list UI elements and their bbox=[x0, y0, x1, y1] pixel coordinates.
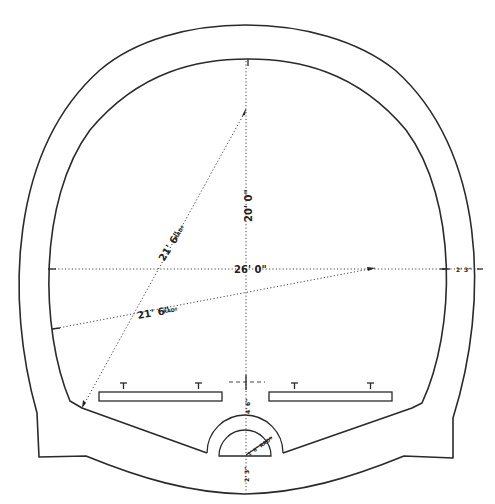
right-platform bbox=[269, 392, 392, 401]
width-dimension-label: 26' 0" bbox=[234, 264, 267, 275]
invert-thickness-label: 2' 3" bbox=[243, 467, 250, 482]
rail-icon-left-2 bbox=[195, 383, 202, 389]
wall-thickness-label: 2' 3" bbox=[456, 266, 471, 273]
outer-lining-outline bbox=[19, 25, 475, 494]
height-dimension-label: 20' 0" bbox=[243, 189, 254, 222]
lower-radius-line bbox=[53, 268, 375, 329]
upper-radius-suffix: RADº bbox=[173, 224, 186, 240]
rail-icon-right-2 bbox=[367, 383, 374, 389]
rail-icon-right-1 bbox=[291, 383, 298, 389]
inner-lining-outline bbox=[49, 59, 447, 453]
rail-icon-left-1 bbox=[120, 383, 127, 389]
drain-outer-arch bbox=[207, 415, 283, 453]
lower-radius-end-arrow bbox=[82, 400, 86, 408]
lower-radius-arrow bbox=[367, 267, 375, 271]
left-platform bbox=[99, 392, 222, 401]
upper-radius-arrow bbox=[242, 108, 246, 116]
tunnel-cross-section-diagram: 20' 0" 26' 0" 2' 3" 21' 6" RADº 21' 6" R… bbox=[0, 0, 495, 504]
lower-radius-suffix: RADº bbox=[163, 306, 179, 314]
lower-radius-tick bbox=[52, 328, 60, 329]
platform-drain-dimension-label: 4' 6" bbox=[244, 399, 251, 414]
